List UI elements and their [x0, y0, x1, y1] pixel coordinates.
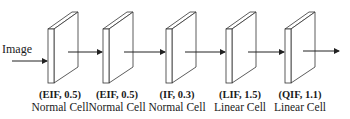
cell-type: (IF, 0.3)	[145, 88, 209, 101]
cell-type: (EIF, 0.5)	[85, 88, 149, 101]
cell-plate-1	[48, 12, 78, 83]
cell-name: Normal Cell	[28, 101, 92, 114]
cell-plate-2	[103, 12, 133, 83]
cell-label-5: (QIF, 1.1) Linear Cell	[268, 88, 332, 114]
cell-type: (QIF, 1.1)	[268, 88, 332, 101]
input-label: Image	[2, 42, 32, 57]
cell-name: Linear Cell	[268, 101, 332, 114]
cell-name: Normal Cell	[85, 101, 149, 114]
cell-name: Normal Cell	[145, 101, 209, 114]
cell-label-4: (LIF, 1.5) Linear Cell	[208, 88, 272, 114]
cell-type: (EIF, 0.5)	[28, 88, 92, 101]
cell-plate-4	[226, 12, 256, 83]
cell-name: Linear Cell	[208, 101, 272, 114]
cell-label-2: (EIF, 0.5) Normal Cell	[85, 88, 149, 114]
cell-label-3: (IF, 0.3) Normal Cell	[145, 88, 209, 114]
cell-plate-5	[285, 12, 315, 83]
cell-plate-3	[166, 12, 196, 83]
cell-label-1: (EIF, 0.5) Normal Cell	[28, 88, 92, 114]
cell-type: (LIF, 1.5)	[208, 88, 272, 101]
